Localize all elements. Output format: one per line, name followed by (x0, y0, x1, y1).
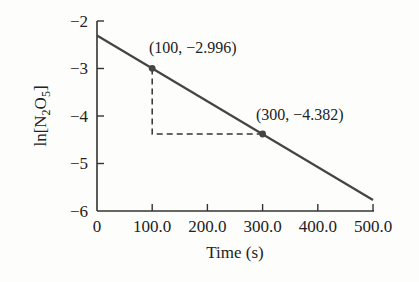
x-axis-label: Time (s) (206, 243, 263, 262)
x-tick-label: 0 (93, 217, 102, 236)
x-tick-label: 300.0 (243, 217, 281, 236)
x-tick-label: 500.0 (354, 217, 392, 236)
y-tick-label: −6 (70, 202, 88, 221)
x-ticks (152, 204, 373, 211)
y-tick-label: −2 (70, 12, 88, 31)
y-axis-label: ln[N2O5] (31, 85, 53, 146)
y-tick-label: −4 (70, 107, 89, 126)
x-tick-label: 400.0 (299, 217, 337, 236)
x-tick-label: 200.0 (188, 217, 226, 236)
y-ticks (97, 21, 104, 164)
chart: −2 −3 −4 −5 −6 0 100.0 200.0 300.0 400.0… (0, 0, 419, 282)
data-point-100 (149, 65, 156, 72)
y-tick-label: −3 (70, 59, 88, 78)
data-point-300 (259, 131, 266, 138)
y-tick-label: −5 (70, 154, 88, 173)
x-tick-label: 100.0 (133, 217, 171, 236)
point-annotation-2: (300, −4.382) (256, 106, 344, 124)
point-annotation-1: (100, −2.996) (149, 39, 237, 57)
